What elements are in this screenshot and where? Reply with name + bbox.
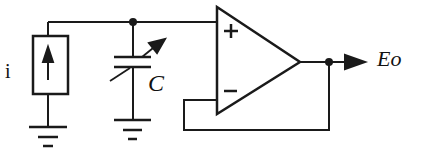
current-source-label: i (5, 60, 11, 83)
current-source-arrow-head (43, 47, 53, 62)
variable-capacitor-icon (114, 57, 151, 67)
ground-icon (29, 127, 67, 146)
junction-dot-a (129, 18, 137, 26)
schematic-svg (0, 0, 424, 162)
capacitor-arrow-head (149, 39, 165, 53)
output-label: Eo (377, 46, 401, 72)
junction-dot-b (325, 58, 333, 66)
wire-feedback (184, 62, 329, 130)
ground-icon-2 (114, 120, 151, 139)
capacitor-variable-arrow (110, 68, 130, 81)
circuit-diagram: i C Eo (0, 0, 424, 162)
current-source-box (33, 36, 68, 94)
plus-sign (224, 24, 238, 38)
op-amp-triangle (217, 7, 300, 114)
capacitor-label: C (148, 70, 164, 97)
output-arrow-icon (345, 55, 365, 69)
